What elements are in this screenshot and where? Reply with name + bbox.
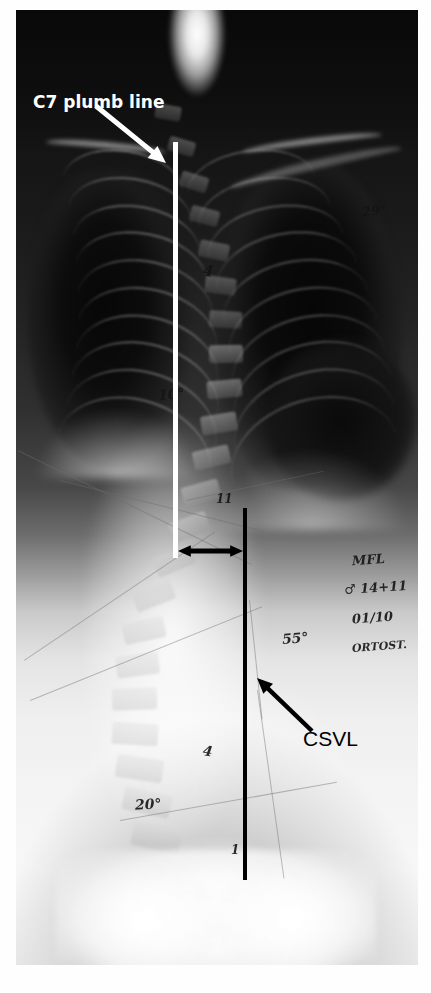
coronal-offset-double-arrow — [178, 545, 243, 556]
c7-plumb-line-label: C7 plumb line — [33, 92, 164, 112]
annotation-overlay: C7 plumb line CSVL — [0, 0, 431, 993]
csvl-arrow — [257, 678, 312, 731]
page-background: 29°410°11MFL♂ 14+1101/10ORTOST.55°420°1 — [0, 0, 431, 993]
c7-plumb-arrow — [96, 106, 166, 163]
annotation-arrows — [0, 0, 431, 993]
csvl-label: CSVL — [303, 727, 358, 751]
